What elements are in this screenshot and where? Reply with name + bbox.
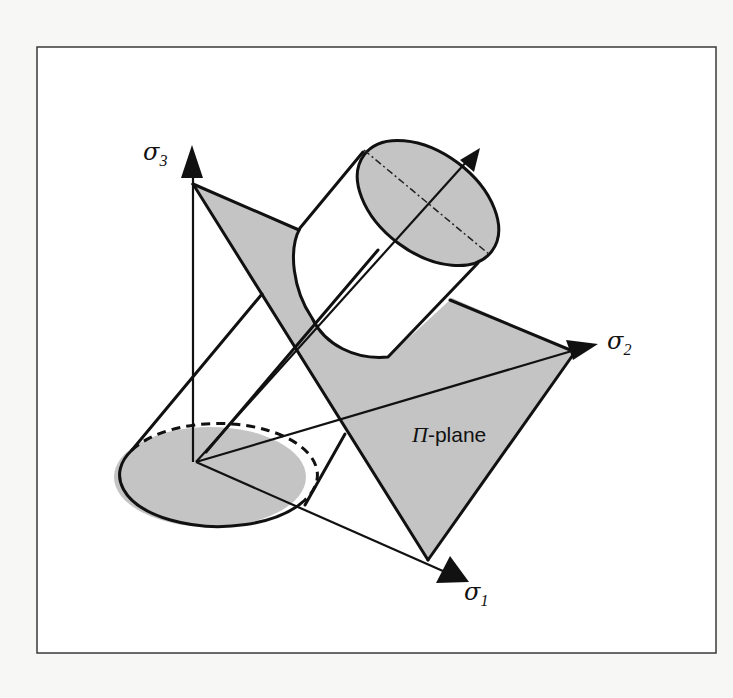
cylinder-base-ellipse — [114, 427, 306, 527]
yield-surface-diagram: σ3 σ2 σ1 Π-plane — [0, 0, 733, 698]
pi-plane-label: Π-plane — [411, 422, 486, 447]
